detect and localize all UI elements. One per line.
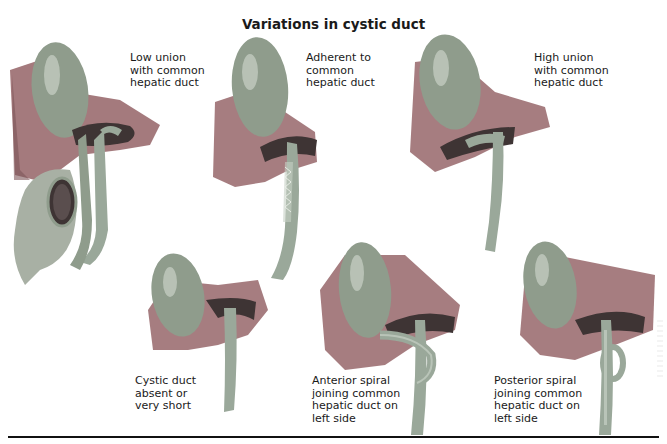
label-adherent: Adherent to common hepatic duct [306, 52, 375, 90]
illustration-high-union [395, 32, 555, 262]
label-posterior-spiral: Posterior spiral joining common hepatic … [494, 375, 582, 425]
watermark-signature [657, 320, 663, 380]
label-absent-short: Cystic duct absent or very short [135, 375, 196, 413]
bottom-divider [8, 436, 659, 438]
label-high-union: High union with common hepatic duct [534, 52, 609, 90]
label-low-union: Low union with common hepatic duct [130, 52, 205, 90]
label-anterior-spiral: Anterior spiral joining common hepatic d… [312, 375, 400, 425]
